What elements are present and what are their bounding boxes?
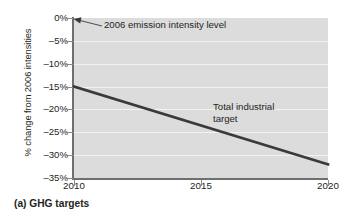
y-tick-mark [66, 178, 73, 179]
gridline [74, 155, 328, 156]
series-annotation-label: Total industrial target [213, 101, 274, 124]
y-tick-mark [66, 155, 73, 156]
plot-area [74, 18, 328, 178]
x-tick-mark [201, 180, 202, 186]
y-tick-labels: 0%–5%–10%–15%–20%–25%–30%–35% [22, 0, 68, 190]
y-tick-mark [66, 109, 73, 110]
y-tick-label: –10% [22, 59, 68, 69]
y-tick-mark [66, 41, 73, 42]
ghg-targets-figure: % change from 2006 intensities 0%–5%–10%… [0, 0, 351, 217]
gridline [74, 41, 328, 42]
gridline [74, 87, 328, 88]
y-tick-label: –30% [22, 150, 68, 160]
y-tick-label: 0% [22, 13, 68, 23]
gridline [74, 132, 328, 133]
x-tick-mark [328, 180, 329, 186]
y-tick-label: –15% [22, 82, 68, 92]
y-tick-mark [66, 87, 73, 88]
gridline [74, 109, 328, 110]
figure-caption: (a) GHG targets [14, 198, 89, 209]
x-tick-mark [74, 180, 75, 186]
y-tick-label: –5% [22, 36, 68, 46]
y-tick-mark [66, 132, 73, 133]
y-tick-mark [66, 64, 73, 65]
baseline-annotation-label: 2006 emission intensity level [104, 19, 226, 30]
y-tick-mark [66, 18, 73, 19]
y-tick-label: –25% [22, 127, 68, 137]
x-tick-labels: 201020152020 [0, 180, 351, 196]
y-tick-label: –20% [22, 104, 68, 114]
gridline [74, 64, 328, 65]
